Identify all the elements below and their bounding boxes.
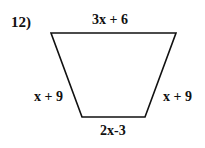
top-side-label: 3x + 6 (92, 13, 128, 27)
right-side-label: x + 9 (163, 90, 192, 104)
worksheet-problem: 12) 3x + 6 x + 9 x + 9 2x-3 (0, 0, 205, 148)
left-side-label: x + 9 (34, 90, 63, 104)
bottom-side-label: 2x-3 (100, 124, 126, 138)
trapezoid-outline (51, 33, 176, 117)
